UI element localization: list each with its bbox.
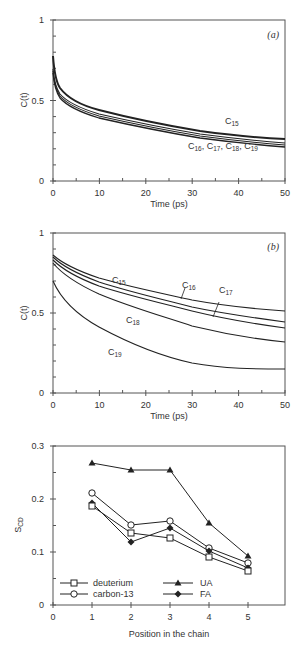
panel-b-curve-c18: [53, 263, 285, 342]
filled-diamond-icon: [175, 591, 182, 598]
panel-b-xtick-0: 0: [50, 400, 55, 410]
panel-b-curve-c15: [53, 255, 285, 311]
panel-b-xtick-40: 40: [234, 400, 244, 410]
panel-b-xtick-50: 50: [280, 400, 290, 410]
panel-a-xtick-0: 0: [50, 188, 55, 198]
panel-a-tag: (a): [267, 29, 279, 41]
legend-item-deuterium: deuterium: [60, 578, 133, 588]
legend-item-carbon13: carbon-13: [60, 589, 134, 599]
panel-c-xtick-4: 4: [206, 612, 211, 622]
panel-b-xtick-10: 10: [94, 400, 104, 410]
panel-c-xtick-1: 1: [89, 612, 94, 622]
panel-c-ytick-0.3: 0.3: [31, 441, 44, 451]
panel-a-ytick-0.5: 0.5: [31, 96, 44, 106]
panel-a: 1 0.5 0 0 10 20 30 40 50 Time (ps) C(t) …: [19, 15, 290, 209]
legend-label-ua: UA: [200, 578, 213, 588]
panel-a-curve-c15: [53, 56, 285, 139]
series-ua-markers: [89, 460, 252, 559]
panel-b-ytick-0: 0: [39, 388, 44, 398]
panel-c: 0.3 0.2 0.1 0 0 1 2 3 4 5 Position in th…: [13, 441, 285, 639]
panel-a-ytick-1: 1: [39, 15, 44, 25]
panel-b-curve-c16: [53, 257, 285, 322]
legend-label-carbon13: carbon-13: [93, 589, 134, 599]
panel-c-xtick-3: 3: [167, 612, 172, 622]
figure: 1 0.5 0 0 10 20 30 40 50 Time (ps) C(t) …: [0, 0, 303, 654]
panel-b: 1 0.5 0 0 10 20 30 40 50 Time (ps) C(t) …: [19, 228, 290, 421]
panel-a-label-c16-c19: C16, C17, C18, C19: [188, 141, 258, 152]
panel-c-y-axis-title: SCD: [13, 517, 24, 533]
panel-a-xtick-30: 30: [187, 188, 197, 198]
panel-a-xtick-20: 20: [141, 188, 151, 198]
panel-a-x-axis-title: Time (ps): [150, 199, 188, 209]
legend-label-deuterium: deuterium: [93, 578, 133, 588]
legend-item-ua: UA: [163, 578, 213, 588]
panel-b-ytick-0.5: 0.5: [31, 308, 44, 318]
panel-a-label-c15: C15: [225, 116, 239, 127]
panel-b-x-axis-title: Time (ps): [150, 411, 188, 421]
open-circle-icon: [71, 591, 77, 597]
panel-a-ytick-0: 0: [39, 176, 44, 186]
panel-c-legend: deuterium carbon-13 UA FA: [60, 578, 213, 599]
panel-b-xtick-20: 20: [141, 400, 151, 410]
panel-c-xtick-5: 5: [245, 612, 250, 622]
panel-a-y-axis-title: C(t): [19, 93, 29, 108]
panel-c-ytick-0: 0: [39, 600, 44, 610]
panel-b-label-c18: C18: [126, 315, 140, 326]
panel-b-tag: (b): [267, 241, 279, 253]
panel-c-x-axis-title: Position in the chain: [129, 629, 210, 639]
panel-b-y-axis-title: C(t): [19, 306, 29, 321]
panel-b-label-c15: C15: [112, 275, 126, 286]
panel-b-curve-c19: [53, 281, 285, 369]
panel-b-label-c19: C19: [108, 347, 122, 358]
panel-a-xtick-40: 40: [234, 188, 244, 198]
panel-c-ytick-0.2: 0.2: [31, 494, 44, 504]
open-square-icon: [71, 580, 77, 586]
panel-b-curve-c17: [53, 260, 285, 328]
panel-b-ytick-1: 1: [39, 228, 44, 238]
panel-a-xtick-50: 50: [280, 188, 290, 198]
panel-b-xtick-30: 30: [187, 400, 197, 410]
panel-c-ytick-0.1: 0.1: [31, 547, 44, 557]
panel-c-xtick-0: 0: [50, 612, 55, 622]
legend-item-fa: FA: [163, 589, 211, 599]
panel-a-frame: [53, 20, 285, 181]
panel-b-label-c16: C16: [182, 280, 196, 291]
panel-c-xtick-2: 2: [128, 612, 133, 622]
panel-a-xtick-10: 10: [94, 188, 104, 198]
panel-b-label-c17: C17: [219, 285, 233, 296]
series-ua-line: [92, 463, 248, 556]
panel-a-curve-c17: [53, 71, 285, 145]
legend-label-fa: FA: [200, 589, 211, 599]
